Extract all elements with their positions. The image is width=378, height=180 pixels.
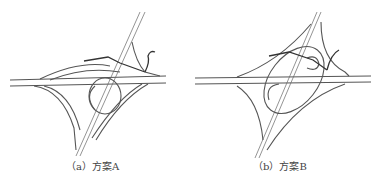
interchange-diagram-b: [189, 0, 378, 180]
caption-scheme-b: （b）方案B: [253, 158, 307, 173]
caption-scheme-a: （a）方案A: [66, 158, 119, 173]
interchange-diagram-a: [0, 0, 189, 180]
panel-scheme-b: （b）方案B: [189, 0, 378, 180]
panel-scheme-a: （a）方案A: [0, 0, 189, 180]
